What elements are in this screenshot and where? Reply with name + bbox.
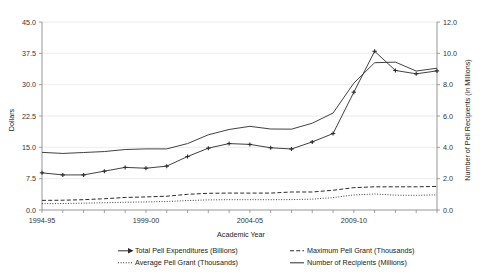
pell-grant-chart: 0.07.515.022.530.037.545.0 0.02.04.06.08…	[0, 0, 483, 278]
series-line	[42, 62, 437, 153]
y-axis-right-ticks: 0.02.04.06.08.010.012.0	[437, 18, 457, 215]
legend: Total Pell Expenditures (Billions)Maximu…	[118, 246, 414, 267]
x-axis-ticks: 1994-951999-002004-052009-10	[29, 210, 437, 225]
legend-item[interactable]: Number of Recipients (Millions)	[290, 258, 407, 267]
series-line	[42, 51, 437, 175]
legend-item[interactable]: Maximum Pell Grant (Thousands)	[290, 246, 414, 255]
y-left-tick-label: 30.0	[22, 80, 36, 89]
y-left-tick-label: 0.0	[26, 206, 36, 215]
gridlines	[42, 22, 437, 179]
y-left-tick-label: 22.5	[22, 112, 36, 121]
series-markers	[40, 49, 439, 177]
y-right-tick-label: 0.0	[443, 206, 453, 215]
y-right-tick-label: 12.0	[443, 18, 457, 27]
y-axis-right-title: Number of Pell Recipients (in Millions)	[463, 59, 472, 180]
y-left-tick-label: 15.0	[22, 143, 36, 152]
legend-item-label: Number of Recipients (Millions)	[307, 258, 407, 267]
y-right-tick-label: 4.0	[443, 143, 453, 152]
series-line	[42, 186, 437, 200]
x-tick-label: 2009-10	[341, 216, 367, 225]
y-right-tick-label: 2.0	[443, 174, 453, 183]
legend-item[interactable]: Average Pell Grant (Thousands)	[118, 258, 238, 267]
legend-item-label: Maximum Pell Grant (Thousands)	[307, 246, 414, 255]
x-tick-label: 1994-95	[29, 216, 55, 225]
y-right-tick-label: 6.0	[443, 112, 453, 121]
y-axis-left-ticks: 0.07.515.022.530.037.545.0	[22, 18, 42, 215]
y-left-tick-label: 37.5	[22, 49, 36, 58]
legend-item[interactable]: Total Pell Expenditures (Billions)	[118, 246, 238, 255]
y-axis-left-title: Dollars	[7, 108, 16, 131]
y-right-tick-label: 8.0	[443, 80, 453, 89]
y-left-tick-label: 7.5	[26, 174, 36, 183]
x-axis-title: Academic Year	[217, 230, 266, 239]
y-right-tick-label: 10.0	[443, 49, 457, 58]
chart-canvas: 0.07.515.022.530.037.545.0 0.02.04.06.08…	[0, 0, 483, 278]
y-left-tick-label: 45.0	[22, 18, 36, 27]
x-tick-label: 1999-00	[133, 216, 159, 225]
x-tick-label: 2004-05	[237, 216, 263, 225]
legend-arrow-marker	[128, 248, 134, 254]
legend-item-label: Total Pell Expenditures (Billions)	[135, 246, 238, 255]
legend-item-label: Average Pell Grant (Thousands)	[135, 258, 238, 267]
series-lines	[42, 51, 437, 203]
